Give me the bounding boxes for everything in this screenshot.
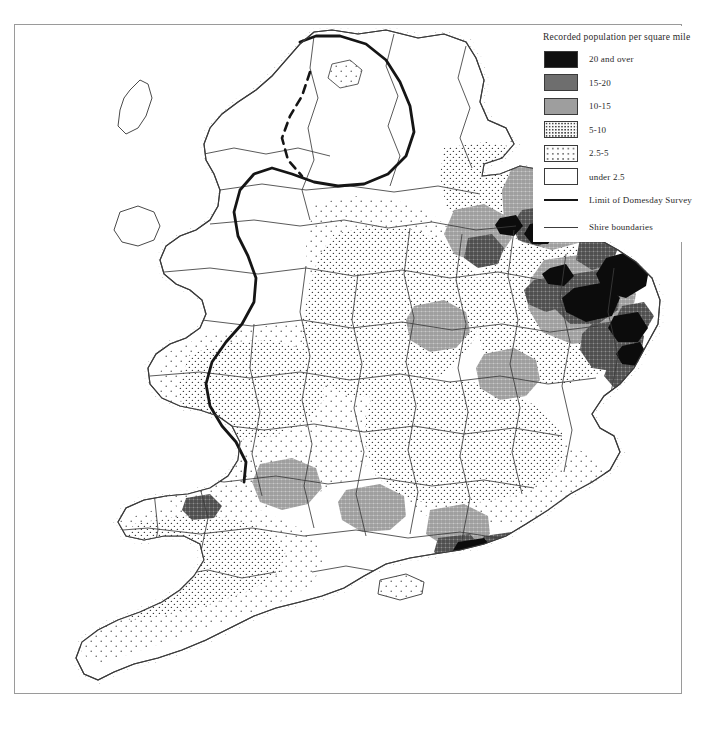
legend-swatch-20-and-over xyxy=(544,51,578,68)
legend-label-15-20: 15-20 xyxy=(589,78,611,88)
legend-label-10-15: 10-15 xyxy=(589,101,611,111)
legend-swatch-2p5-5 xyxy=(544,145,578,162)
legend-row-2p5-5: 2.5-5 xyxy=(539,143,699,163)
figure-root: Recorded population per square mile 20 a… xyxy=(0,0,722,733)
legend-swatch-15-20 xyxy=(544,74,578,91)
legend-line-thin-icon xyxy=(544,227,578,228)
legend-row-5-10: 5-10 xyxy=(539,120,699,140)
island-anglesey xyxy=(114,206,160,246)
legend-label-20-and-over: 20 and over xyxy=(589,54,634,64)
legend-label-2p5-5: 2.5-5 xyxy=(589,148,609,158)
island-isle-of-wight xyxy=(378,574,424,600)
legend-label-5-10: 5-10 xyxy=(589,125,606,135)
legend-title: Recorded population per square mile xyxy=(543,32,699,42)
map-legend: Recorded population per square mile 20 a… xyxy=(533,26,701,242)
legend-row-10-15: 10-15 xyxy=(539,96,699,116)
legend-row-20-and-over: 20 and over xyxy=(539,49,699,69)
legend-row-under-2p5: under 2.5 xyxy=(539,167,699,187)
legend-swatch-5-10 xyxy=(544,121,578,138)
legend-line-thick-icon xyxy=(544,199,578,201)
legend-label-under-2p5: under 2.5 xyxy=(589,172,625,182)
legend-row-shire-boundaries: Shire boundaries xyxy=(539,219,699,236)
legend-label-survey-limit: Limit of Domesday Survey xyxy=(589,195,692,205)
legend-row-15-20: 15-20 xyxy=(539,73,699,93)
island-isle-of-man xyxy=(118,80,152,134)
legend-swatch-under-2p5 xyxy=(544,168,578,185)
legend-row-survey-limit: Limit of Domesday Survey xyxy=(539,192,699,209)
legend-swatch-10-15 xyxy=(544,98,578,115)
legend-label-shire-boundaries: Shire boundaries xyxy=(589,222,653,232)
